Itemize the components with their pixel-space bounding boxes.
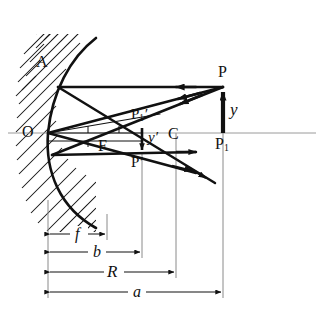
label-object-base-subscript: 1 [224, 142, 229, 153]
label-image-axis-prime: ′ [144, 106, 147, 122]
figure-canvas: A O F C P P1 P1′ P′ y y′ f b R a [0, 0, 322, 315]
dimension-label-f: f [75, 226, 79, 242]
label-vertex-O: O [22, 124, 34, 140]
label-center-of-curvature-C: C [168, 126, 179, 142]
label-focus-F: F [98, 138, 107, 154]
label-image-height-y-letter: y [148, 129, 155, 145]
label-object-base-P-letter: P [215, 135, 224, 152]
mirror-hatching [16, 6, 98, 234]
dimension-label-a: a [133, 284, 141, 300]
label-mirror-edge-A: A [36, 54, 48, 70]
label-object-height-y: y [230, 101, 238, 118]
label-object-top-P: P [218, 64, 227, 80]
dimension-label-b: b [93, 244, 101, 260]
label-image-height-y-prime: y′ [148, 130, 158, 145]
label-image-axis-P1-prime: P1′ [131, 107, 147, 123]
label-image-point-prime: ′ [139, 154, 142, 170]
label-image-point-P-prime: P′ [131, 155, 143, 170]
ray-diagram-svg [0, 0, 322, 315]
label-image-height-prime: ′ [155, 129, 158, 145]
reflected-ray-arrowheads [172, 152, 206, 178]
dimension-label-R: R [107, 263, 117, 280]
label-object-base-P1: P1 [215, 136, 229, 153]
